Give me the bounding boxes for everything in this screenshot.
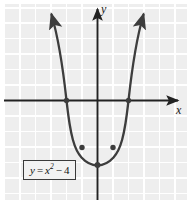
x-axis-label: x [176,104,181,116]
point-marker-right-intercept [126,98,131,103]
equation-exponent: 2 [50,162,54,171]
parabola-left-branch [52,15,98,166]
parabola-right-branch [98,15,144,166]
equation-operator: − [56,164,62,176]
equation-equals: = [37,164,43,176]
point-marker-left-mid [79,145,84,150]
equation-label-box: y=x2−4 [23,160,76,180]
point-marker-left-branch [51,19,56,24]
point-marker-right-mid [110,145,115,150]
y-axis-label: y [101,3,106,15]
equation-lhs: y [30,164,35,176]
point-marker-vertex [95,162,101,168]
point-marker-right-branch [139,19,144,24]
parabola-figure: y x y=x2−4 [0,0,191,204]
equation-constant: 4 [64,164,70,176]
point-marker-left-intercept [64,98,69,103]
